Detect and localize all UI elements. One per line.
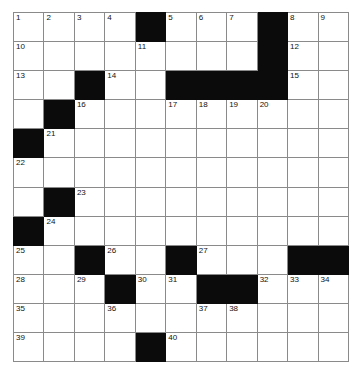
crossword-cell[interactable] <box>74 333 104 362</box>
crossword-cell[interactable]: 35 <box>14 303 44 332</box>
crossword-cell[interactable] <box>74 303 104 332</box>
crossword-cell[interactable] <box>288 129 318 158</box>
crossword-cell[interactable] <box>257 158 287 187</box>
crossword-cell[interactable] <box>166 303 196 332</box>
crossword-cell[interactable] <box>74 129 104 158</box>
crossword-cell[interactable] <box>44 274 74 303</box>
crossword-cell[interactable]: 28 <box>14 274 44 303</box>
crossword-cell[interactable] <box>74 42 104 71</box>
crossword-cell[interactable]: 20 <box>257 100 287 129</box>
crossword-cell[interactable] <box>105 100 135 129</box>
crossword-cell[interactable] <box>166 158 196 187</box>
crossword-cell[interactable] <box>44 333 74 362</box>
crossword-cell[interactable] <box>288 303 318 332</box>
crossword-cell[interactable]: 25 <box>14 245 44 274</box>
crossword-cell[interactable] <box>318 216 348 245</box>
crossword-cell[interactable] <box>318 42 348 71</box>
crossword-cell[interactable] <box>227 129 257 158</box>
crossword-cell[interactable] <box>257 245 287 274</box>
crossword-cell[interactable] <box>318 158 348 187</box>
crossword-cell[interactable]: 10 <box>14 42 44 71</box>
crossword-cell[interactable] <box>257 303 287 332</box>
crossword-cell[interactable] <box>227 245 257 274</box>
crossword-cell[interactable] <box>318 333 348 362</box>
crossword-cell[interactable] <box>288 100 318 129</box>
crossword-cell[interactable] <box>135 100 165 129</box>
crossword-cell[interactable]: 30 <box>135 274 165 303</box>
crossword-cell[interactable]: 3 <box>74 13 104 42</box>
crossword-cell[interactable] <box>166 42 196 71</box>
crossword-cell[interactable] <box>318 303 348 332</box>
crossword-cell[interactable]: 11 <box>135 42 165 71</box>
crossword-cell[interactable]: 16 <box>74 100 104 129</box>
crossword-cell[interactable]: 22 <box>14 158 44 187</box>
crossword-cell[interactable]: 23 <box>74 187 104 216</box>
crossword-cell[interactable]: 4 <box>105 13 135 42</box>
crossword-cell[interactable]: 19 <box>227 100 257 129</box>
crossword-cell[interactable] <box>288 333 318 362</box>
crossword-cell[interactable] <box>105 333 135 362</box>
crossword-cell[interactable] <box>196 216 226 245</box>
crossword-cell[interactable] <box>135 71 165 100</box>
crossword-cell[interactable] <box>135 303 165 332</box>
crossword-cell[interactable] <box>105 158 135 187</box>
crossword-cell[interactable]: 7 <box>227 13 257 42</box>
crossword-cell[interactable] <box>166 216 196 245</box>
crossword-cell[interactable]: 39 <box>14 333 44 362</box>
crossword-cell[interactable]: 31 <box>166 274 196 303</box>
crossword-cell[interactable] <box>135 245 165 274</box>
crossword-cell[interactable] <box>227 216 257 245</box>
crossword-cell[interactable] <box>257 129 287 158</box>
crossword-cell[interactable]: 24 <box>44 216 74 245</box>
crossword-cell[interactable]: 34 <box>318 274 348 303</box>
crossword-cell[interactable] <box>257 333 287 362</box>
crossword-cell[interactable]: 6 <box>196 13 226 42</box>
crossword-cell[interactable] <box>44 303 74 332</box>
crossword-cell[interactable] <box>44 158 74 187</box>
crossword-cell[interactable] <box>14 100 44 129</box>
crossword-cell[interactable] <box>105 42 135 71</box>
crossword-cell[interactable] <box>44 71 74 100</box>
crossword-cell[interactable] <box>318 129 348 158</box>
crossword-cell[interactable]: 27 <box>196 245 226 274</box>
crossword-cell[interactable]: 17 <box>166 100 196 129</box>
crossword-cell[interactable] <box>227 42 257 71</box>
crossword-cell[interactable] <box>135 187 165 216</box>
crossword-cell[interactable] <box>166 129 196 158</box>
crossword-cell[interactable] <box>257 216 287 245</box>
crossword-cell[interactable] <box>288 158 318 187</box>
crossword-cell[interactable]: 26 <box>105 245 135 274</box>
crossword-cell[interactable] <box>135 129 165 158</box>
crossword-cell[interactable]: 21 <box>44 129 74 158</box>
crossword-cell[interactable] <box>14 187 44 216</box>
crossword-cell[interactable] <box>318 100 348 129</box>
crossword-cell[interactable] <box>74 216 104 245</box>
crossword-cell[interactable]: 15 <box>288 71 318 100</box>
crossword-cell[interactable]: 36 <box>105 303 135 332</box>
crossword-cell[interactable]: 32 <box>257 274 287 303</box>
crossword-cell[interactable] <box>44 42 74 71</box>
crossword-cell[interactable] <box>288 216 318 245</box>
crossword-cell[interactable] <box>196 158 226 187</box>
crossword-cell[interactable] <box>196 187 226 216</box>
crossword-cell[interactable] <box>318 71 348 100</box>
crossword-cell[interactable]: 33 <box>288 274 318 303</box>
crossword-cell[interactable]: 5 <box>166 13 196 42</box>
crossword-cell[interactable] <box>166 187 196 216</box>
crossword-cell[interactable] <box>105 216 135 245</box>
crossword-cell[interactable]: 38 <box>227 303 257 332</box>
crossword-cell[interactable] <box>74 158 104 187</box>
crossword-cell[interactable]: 13 <box>14 71 44 100</box>
crossword-cell[interactable]: 29 <box>74 274 104 303</box>
crossword-cell[interactable]: 12 <box>288 42 318 71</box>
crossword-cell[interactable]: 1 <box>14 13 44 42</box>
crossword-cell[interactable]: 37 <box>196 303 226 332</box>
crossword-cell[interactable]: 9 <box>318 13 348 42</box>
crossword-cell[interactable] <box>196 129 226 158</box>
crossword-cell[interactable] <box>227 187 257 216</box>
crossword-cell[interactable] <box>288 187 318 216</box>
crossword-cell[interactable] <box>318 187 348 216</box>
crossword-cell[interactable] <box>135 216 165 245</box>
crossword-cell[interactable] <box>227 333 257 362</box>
crossword-cell[interactable]: 8 <box>288 13 318 42</box>
